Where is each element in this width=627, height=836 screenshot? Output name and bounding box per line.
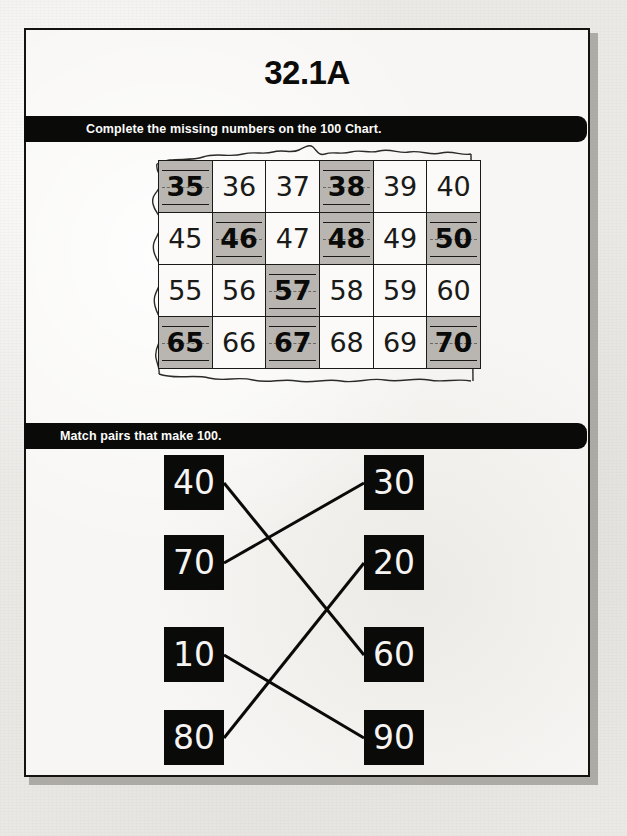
- guide-line-bottom: [323, 204, 370, 205]
- chart-row: 65 66 67 68 69: [159, 317, 481, 369]
- page-title: 32.1A: [26, 54, 588, 92]
- chart-cell[interactable]: 35: [159, 161, 213, 213]
- instruction-text-matching: Match pairs that make 100.: [60, 429, 222, 443]
- match-left-box-4[interactable]: 80: [164, 710, 224, 765]
- worksheet-page: 32.1A Complete the missing numbers on th…: [24, 28, 590, 777]
- chart-cell[interactable]: 67: [266, 317, 320, 369]
- chart-cell[interactable]: 36: [212, 161, 266, 213]
- chart-cell-value: 65: [167, 327, 205, 358]
- match-right-box-3[interactable]: 60: [364, 627, 424, 682]
- guide-line-bottom: [162, 204, 209, 205]
- chart-cell[interactable]: 70: [427, 317, 481, 369]
- chart-cell-value: 48: [328, 223, 366, 254]
- guide-line-bottom: [162, 360, 209, 361]
- chart-cell-value: 67: [274, 327, 312, 358]
- chart-cell-value: 60: [436, 275, 470, 306]
- guide-line-bottom: [430, 256, 477, 257]
- match-left-value-3: 10: [173, 638, 215, 671]
- guide-line-bottom: [269, 308, 316, 309]
- hundred-chart-grid: 35 36 37 38 39: [158, 160, 481, 369]
- match-right-value-1: 30: [373, 466, 415, 499]
- chart-cell-value: 66: [222, 327, 256, 358]
- chart-cell[interactable]: 58: [320, 265, 374, 317]
- chart-cell-value: 68: [329, 327, 363, 358]
- guide-line-bottom: [269, 360, 316, 361]
- guide-line-bottom: [323, 256, 370, 257]
- chart-cell-value: 36: [222, 171, 256, 202]
- chart-cell-value: 55: [168, 275, 202, 306]
- chart-cell-value: 38: [328, 171, 366, 202]
- match-left-box-3[interactable]: 10: [164, 627, 224, 682]
- chart-cell[interactable]: 47: [266, 213, 320, 265]
- chart-cell[interactable]: 60: [427, 265, 481, 317]
- chart-cell[interactable]: 59: [373, 265, 426, 317]
- connection-line-70-30[interactable]: [224, 483, 364, 563]
- chart-cell-value: 56: [222, 275, 256, 306]
- chart-cell[interactable]: 49: [373, 213, 426, 265]
- matching-connection-lines: [26, 455, 588, 775]
- chart-cell-value: 59: [383, 275, 417, 306]
- chart-cell-value: 70: [435, 327, 473, 358]
- chart-cell-value: 46: [220, 223, 258, 254]
- chart-cell-value: 47: [276, 223, 310, 254]
- match-left-box-2[interactable]: 70: [164, 535, 224, 590]
- guide-line-bottom: [216, 256, 263, 257]
- chart-cell[interactable]: 39: [373, 161, 426, 213]
- chart-cell[interactable]: 48: [320, 213, 374, 265]
- match-left-box-1[interactable]: 40: [164, 455, 224, 510]
- chart-cell[interactable]: 66: [212, 317, 266, 369]
- match-right-box-1[interactable]: 30: [364, 455, 424, 510]
- match-left-value-4: 80: [173, 721, 215, 754]
- chart-row: 55 56 57 58 59: [159, 265, 481, 317]
- chart-cell[interactable]: 38: [320, 161, 374, 213]
- instruction-bar-matching: Match pairs that make 100.: [24, 423, 587, 449]
- connection-line-80-20[interactable]: [224, 563, 364, 738]
- match-right-box-4[interactable]: 90: [364, 710, 424, 765]
- chart-cell-value: 69: [383, 327, 417, 358]
- guide-line-bottom: [430, 360, 477, 361]
- chart-cell[interactable]: 65: [159, 317, 213, 369]
- chart-cell[interactable]: 50: [427, 213, 481, 265]
- match-left-value-2: 70: [173, 546, 215, 579]
- match-right-value-4: 90: [373, 721, 415, 754]
- chart-cell[interactable]: 69: [373, 317, 426, 369]
- chart-cell[interactable]: 68: [320, 317, 374, 369]
- match-right-value-2: 20: [373, 546, 415, 579]
- matching-section: 40 70 10 80 30 20 60 90: [26, 455, 588, 775]
- chart-cell-value: 35: [167, 171, 205, 202]
- match-right-value-3: 60: [373, 638, 415, 671]
- instruction-text-chart: Complete the missing numbers on the 100 …: [86, 122, 382, 136]
- chart-cell[interactable]: 46: [212, 213, 266, 265]
- chart-cell-value: 37: [276, 171, 310, 202]
- chart-cell-value: 45: [168, 223, 202, 254]
- chart-cell[interactable]: 56: [212, 265, 266, 317]
- match-right-box-2[interactable]: 20: [364, 535, 424, 590]
- chart-cell-value: 57: [274, 275, 312, 306]
- chart-row: 45 46 47 48: [159, 213, 481, 265]
- chart-cell[interactable]: 37: [266, 161, 320, 213]
- connection-line-10-90[interactable]: [224, 655, 364, 738]
- chart-cell-value: 39: [383, 171, 417, 202]
- chart-cell-value: 58: [329, 275, 363, 306]
- chart-cell[interactable]: 45: [159, 213, 213, 265]
- hundred-chart-section: 35 36 37 38 39: [141, 142, 481, 387]
- chart-row: 35 36 37 38 39: [159, 161, 481, 213]
- chart-cell-value: 40: [436, 171, 470, 202]
- match-left-value-1: 40: [173, 466, 215, 499]
- chart-cell[interactable]: 40: [427, 161, 481, 213]
- connection-line-40-60[interactable]: [224, 483, 364, 655]
- chart-cell-value: 49: [383, 223, 417, 254]
- instruction-bar-chart: Complete the missing numbers on the 100 …: [24, 116, 587, 142]
- chart-cell[interactable]: 55: [159, 265, 213, 317]
- chart-cell-value: 50: [435, 223, 473, 254]
- chart-cell[interactable]: 57: [266, 265, 320, 317]
